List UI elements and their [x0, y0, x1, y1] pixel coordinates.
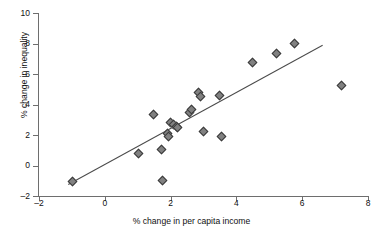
scatter-chart-figure: –20246810 –202468 % change in inequality…: [0, 0, 383, 242]
y-tick-label: –2: [2, 192, 30, 201]
x-tick-label: –2: [27, 199, 51, 208]
data-point-marker: [271, 49, 281, 59]
y-axis-title: % change in inequality: [19, 15, 29, 135]
data-point-marker: [290, 39, 300, 49]
trend-line: [68, 45, 323, 185]
y-tick-label-text: 0: [8, 161, 30, 170]
x-tick-label: 2: [159, 199, 183, 208]
y-tick-label: 0: [2, 161, 30, 170]
plot-area: [39, 13, 368, 196]
data-point-marker: [248, 58, 258, 68]
x-tick-label: 8: [356, 199, 380, 208]
data-point-marker: [133, 149, 143, 159]
data-point-marker: [156, 145, 166, 155]
data-point-marker: [336, 81, 346, 91]
data-point-marker: [217, 132, 227, 142]
x-axis-line: [39, 196, 369, 197]
x-tick-label: 4: [224, 199, 248, 208]
x-tick-label: 6: [290, 199, 314, 208]
data-point-marker: [158, 175, 168, 185]
data-point-marker: [148, 110, 158, 120]
x-axis-title: % change in per capita income: [0, 216, 383, 226]
data-point-marker: [199, 127, 209, 137]
x-tick-label: 0: [93, 199, 117, 208]
